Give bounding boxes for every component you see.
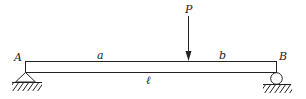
roller-support-icon (259, 73, 296, 94)
span-label: ℓ (146, 74, 151, 87)
beam (26, 62, 277, 73)
load-label: P (184, 3, 193, 16)
segment-label-a: a (97, 49, 104, 62)
pin-support-icon (7, 73, 49, 93)
load-arrow-icon (186, 16, 192, 61)
beam-diagram: P A B a b ℓ (0, 0, 306, 99)
support-label-a: A (13, 51, 22, 64)
segment-label-b: b (219, 49, 226, 62)
support-label-b: B (278, 50, 287, 63)
